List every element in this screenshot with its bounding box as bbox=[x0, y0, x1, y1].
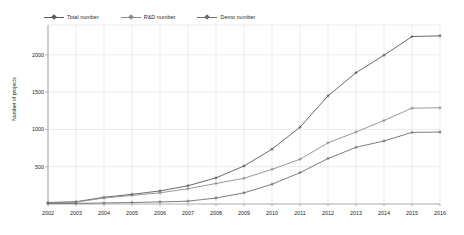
x-tick-label: 2009 bbox=[231, 210, 257, 216]
x-tick-label: 2005 bbox=[119, 210, 145, 216]
x-tick-label: 2015 bbox=[399, 210, 425, 216]
x-tick-label: 2008 bbox=[203, 210, 229, 216]
x-tick-label: 2013 bbox=[343, 210, 369, 216]
x-tick-label: 2006 bbox=[147, 210, 173, 216]
x-tick-label: 2004 bbox=[91, 210, 117, 216]
x-tick-label: 2012 bbox=[315, 210, 341, 216]
line-chart: Total number R&D number Demo number Numb… bbox=[0, 0, 464, 235]
plot-area bbox=[0, 0, 464, 235]
x-tick-label: 2011 bbox=[287, 210, 313, 216]
x-tick-label: 2014 bbox=[371, 210, 397, 216]
x-tick-label: 2007 bbox=[175, 210, 201, 216]
x-tick-label: 2010 bbox=[259, 210, 285, 216]
x-axis-tick-labels: 2002200320042005200620072008200920102011… bbox=[0, 210, 464, 220]
x-tick-label: 2016 bbox=[427, 210, 453, 216]
x-tick-label: 2003 bbox=[63, 210, 89, 216]
axis-lines bbox=[46, 25, 441, 207]
x-tick-label: 2002 bbox=[35, 210, 61, 216]
